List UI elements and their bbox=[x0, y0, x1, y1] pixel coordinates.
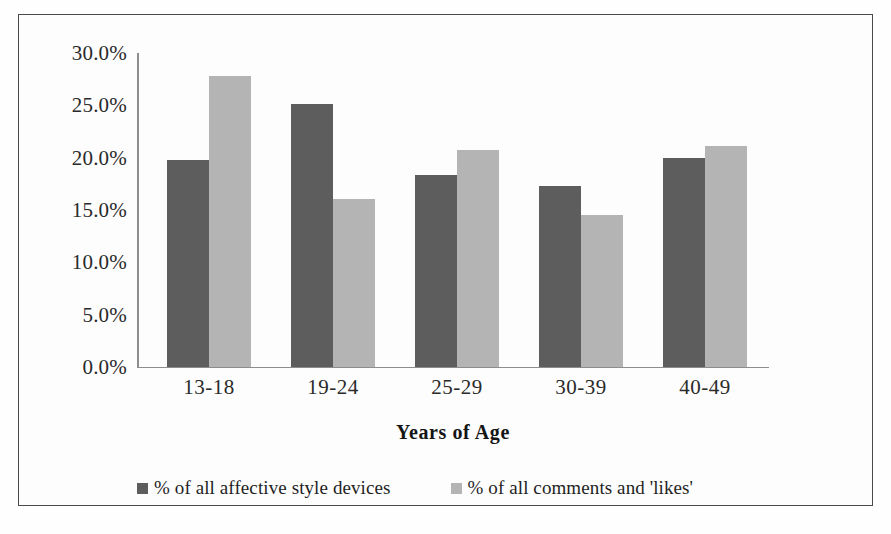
y-axis-tick-label: 15.0% bbox=[72, 198, 127, 223]
bar-series-a[interactable] bbox=[539, 186, 581, 367]
y-axis-tick-label-group: 30.0%25.0%20.0%15.0%10.0%5.0%0.0% bbox=[37, 53, 133, 367]
bar-series-b[interactable] bbox=[333, 199, 375, 368]
x-axis-category-label-group: 13-1819-2425-2930-3940-49 bbox=[137, 375, 769, 409]
chart-frame-border: 30.0%25.0%20.0%15.0%10.0%5.0%0.0% 13-181… bbox=[18, 14, 873, 506]
x-axis-category-label: 19-24 bbox=[307, 375, 359, 400]
bar-series-a[interactable] bbox=[291, 104, 333, 367]
x-axis-category-label: 25-29 bbox=[431, 375, 483, 400]
bar-group bbox=[415, 53, 499, 367]
light-gray-swatch-icon bbox=[451, 483, 462, 494]
y-axis-tick-label: 25.0% bbox=[72, 93, 127, 118]
bar-series-a[interactable] bbox=[167, 160, 209, 367]
bar-group bbox=[663, 53, 747, 367]
y-axis-tick-label: 10.0% bbox=[72, 250, 127, 275]
legend-label: % of all affective style devices bbox=[154, 477, 391, 499]
y-axis-tick-label: 20.0% bbox=[72, 145, 127, 170]
bar-group bbox=[291, 53, 375, 367]
bar-series-b[interactable] bbox=[581, 215, 623, 367]
figure-container: 30.0%25.0%20.0%15.0%10.0%5.0%0.0% 13-181… bbox=[0, 0, 891, 534]
bar-group bbox=[539, 53, 623, 367]
bar-series-b[interactable] bbox=[457, 150, 499, 367]
legend-label: % of all comments and 'likes' bbox=[468, 477, 694, 499]
x-axis-category-label: 30-39 bbox=[555, 375, 607, 400]
legend-entry[interactable]: % of all affective style devices bbox=[137, 477, 391, 499]
x-axis-category-label: 13-18 bbox=[183, 375, 235, 400]
y-axis-tick-label: 30.0% bbox=[72, 41, 127, 66]
dark-gray-swatch-icon bbox=[137, 483, 148, 494]
bar-series-a[interactable] bbox=[663, 158, 705, 367]
plot-area bbox=[137, 53, 757, 367]
bar-group bbox=[167, 53, 251, 367]
bar-series-b[interactable] bbox=[705, 146, 747, 367]
legend-entry[interactable]: % of all comments and 'likes' bbox=[451, 477, 694, 499]
x-axis-title: Years of Age bbox=[137, 421, 769, 444]
y-axis-tick-label: 0.0% bbox=[82, 355, 127, 380]
x-axis-category-label: 40-49 bbox=[679, 375, 731, 400]
bar-series-b[interactable] bbox=[209, 76, 251, 367]
chart-legend: % of all affective style devices% of all… bbox=[137, 477, 777, 499]
y-axis-line bbox=[137, 53, 139, 367]
y-axis-tick-label: 5.0% bbox=[82, 302, 127, 327]
bar-series-a[interactable] bbox=[415, 175, 457, 367]
